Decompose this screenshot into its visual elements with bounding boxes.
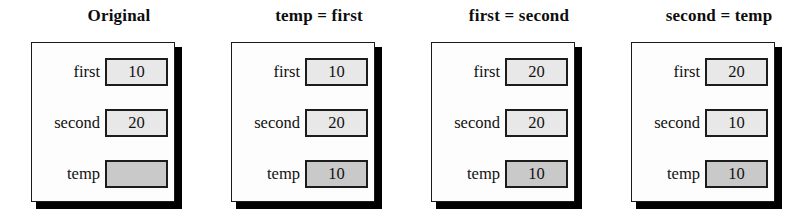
panel-frame: first10second20temp — [31, 42, 175, 202]
panel-frame: first20second10temp10 — [631, 42, 775, 202]
variable-value: 10 — [528, 166, 545, 183]
variable-label: first — [473, 64, 505, 81]
variable-value: 10 — [128, 64, 145, 81]
variable-row: second20 — [32, 108, 176, 138]
variable-label: second — [654, 115, 705, 132]
variable-row: temp10 — [232, 159, 376, 189]
variable-value: 10 — [728, 166, 745, 183]
variable-row: second20 — [432, 108, 576, 138]
variable-value-box: 10 — [505, 160, 568, 188]
panel-title: first = second — [431, 6, 607, 26]
variable-row: first20 — [632, 57, 776, 87]
variable-value: 20 — [128, 115, 145, 132]
variable-label: temp — [67, 166, 105, 183]
variable-row: first10 — [32, 57, 176, 87]
variable-value-box: 20 — [705, 58, 768, 86]
state-panel: temp = firstfirst10second20temp10 — [231, 0, 407, 217]
variable-label: temp — [667, 166, 705, 183]
panel-title: Original — [31, 6, 207, 26]
variable-value: 10 — [328, 64, 345, 81]
variable-value-box: 10 — [705, 109, 768, 137]
variable-label: second — [254, 115, 305, 132]
variable-value: 20 — [728, 64, 745, 81]
panel-frame: first10second20temp10 — [231, 42, 375, 202]
variable-row: temp — [32, 159, 176, 189]
variable-label: first — [73, 64, 105, 81]
variable-value: 20 — [528, 64, 545, 81]
variable-row: second10 — [632, 108, 776, 138]
panel-title: second = temp — [631, 6, 807, 26]
state-panel: Originalfirst10second20temp — [31, 0, 207, 217]
variable-label: second — [54, 115, 105, 132]
variable-value: 10 — [328, 166, 345, 183]
variable-label: temp — [267, 166, 305, 183]
variable-value: 20 — [328, 115, 345, 132]
variable-label: second — [454, 115, 505, 132]
variable-value-box: 20 — [505, 58, 568, 86]
variable-row: temp10 — [632, 159, 776, 189]
variable-value-box: 10 — [305, 58, 368, 86]
variable-value: 10 — [728, 115, 745, 132]
variable-row: first10 — [232, 57, 376, 87]
variable-value-box: 10 — [705, 160, 768, 188]
state-panel: second = tempfirst20second10temp10 — [631, 0, 807, 217]
variable-value-box: 10 — [105, 58, 168, 86]
variable-value-box: 10 — [305, 160, 368, 188]
variable-value: 20 — [528, 115, 545, 132]
variable-row: temp10 — [432, 159, 576, 189]
panel-title: temp = first — [231, 6, 407, 26]
variable-value-box — [105, 160, 168, 188]
variable-label: first — [273, 64, 305, 81]
variable-value-box: 20 — [105, 109, 168, 137]
variable-row: first20 — [432, 57, 576, 87]
panel-frame: first20second20temp10 — [431, 42, 575, 202]
variable-label: first — [673, 64, 705, 81]
variable-label: temp — [467, 166, 505, 183]
variable-swap-diagram: Originalfirst10second20temptemp = firstf… — [0, 0, 809, 217]
variable-row: second20 — [232, 108, 376, 138]
state-panel: first = secondfirst20second20temp10 — [431, 0, 607, 217]
variable-value-box: 20 — [505, 109, 568, 137]
variable-value-box: 20 — [305, 109, 368, 137]
